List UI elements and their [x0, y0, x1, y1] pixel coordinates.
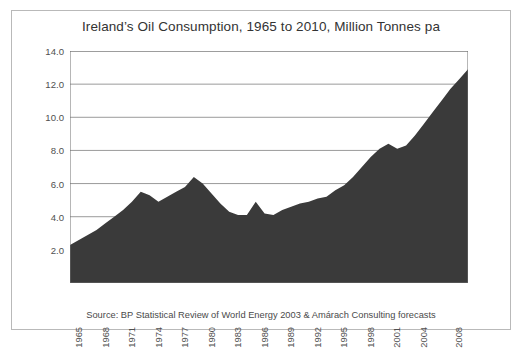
x-axis-tick-label: 2004 [419, 327, 429, 348]
x-axis-tick-label: 1986 [260, 327, 270, 348]
plot-area [70, 51, 468, 283]
x-axis-tick-label: 2001 [392, 327, 402, 348]
x-axis-tick-label: 1989 [286, 327, 296, 348]
y-axis-tick-label: 4.0 [51, 211, 64, 222]
x-axis-tick-label: 1977 [180, 327, 190, 348]
x-axis-tick-label: 1995 [339, 327, 349, 348]
chart-figure-frame: Ireland’s Oil Consumption, 1965 to 2010,… [11, 10, 511, 330]
x-axis-tick-label: 1992 [313, 327, 323, 348]
chart-title: Ireland’s Oil Consumption, 1965 to 2010,… [12, 19, 510, 34]
x-axis-tick-labels: 1965196819711974197719801983198619891992… [70, 287, 468, 329]
x-axis-tick-label: 1968 [101, 327, 111, 348]
y-axis-tick-label: 12.0 [45, 79, 64, 90]
chart-source-note: Source: BP Statistical Review of World E… [12, 310, 510, 320]
x-axis-tick-label: 1971 [127, 327, 137, 348]
y-axis-tick-label: 6.0 [51, 178, 64, 189]
y-axis-tick-label: 8.0 [51, 145, 64, 156]
y-axis-tick-label: 14.0 [45, 46, 64, 57]
y-axis-tick-label: 10.0 [45, 112, 64, 123]
x-axis-tick-label: 1998 [366, 327, 376, 348]
x-axis-tick-label: 1980 [207, 327, 217, 348]
y-axis-tick-labels: 2.04.06.08.010.012.014.0 [24, 51, 64, 283]
y-axis-tick-label: 2.0 [51, 244, 64, 255]
x-axis-tick-label: 1965 [74, 327, 84, 348]
x-axis-tick-label: 1974 [154, 327, 164, 348]
oil-consumption-area-series [70, 69, 468, 283]
x-axis-tick-label: 2008 [454, 327, 464, 348]
area-chart-svg [70, 51, 468, 283]
x-axis-tick-label: 1983 [233, 327, 243, 348]
